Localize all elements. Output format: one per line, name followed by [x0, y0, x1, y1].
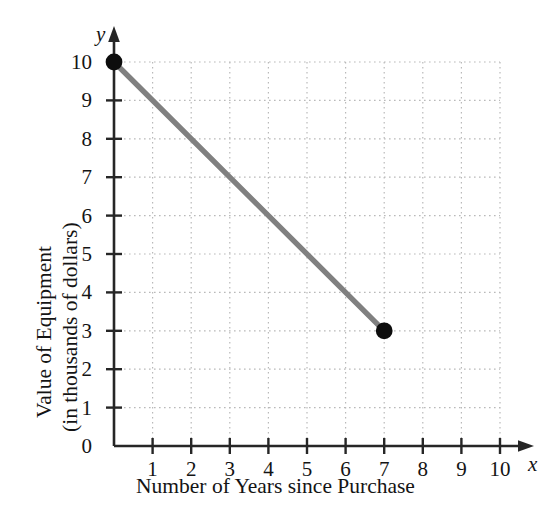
x-axis-title: Number of Years since Purchase	[0, 474, 551, 499]
y-tick-label-8: 8	[52, 129, 92, 150]
y-axis-title-line-1: Value of Equipment	[34, 246, 56, 418]
y-tick-label-0: 0	[52, 436, 92, 457]
gridlines-horizontal	[114, 62, 500, 408]
y-tick-label-10: 10	[52, 52, 92, 73]
y-axis-title-line-2: (in thousands of dollars)	[60, 222, 82, 432]
chart-figure: 0 1 2 3 4 5 6 7 8 9 10 1 2 3 4 5 6 7 8 9…	[0, 0, 551, 511]
y-axis	[108, 26, 120, 446]
y-tick-label-7: 7	[52, 167, 92, 188]
y-axis-letter: y	[96, 24, 105, 45]
data-point-marker-end	[376, 322, 393, 339]
x-axis	[114, 440, 534, 452]
data-point-marker-start	[106, 54, 123, 71]
data-line-value-of-equipment	[114, 62, 384, 331]
x-axis-letter: x	[528, 454, 537, 475]
y-tick-label-9: 9	[52, 90, 92, 111]
